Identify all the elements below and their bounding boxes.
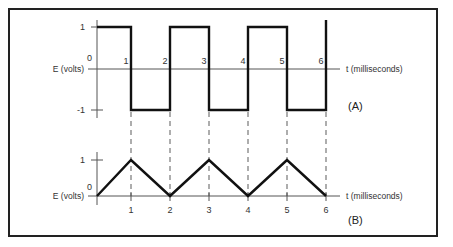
- panel-a-label: (A): [348, 100, 363, 112]
- panel-a-y-axis-label: E (volts): [53, 64, 84, 74]
- panel-b-y-axis-label: E (volts): [53, 191, 84, 201]
- panel-a-ylabel-0: 0: [87, 53, 92, 63]
- panel-connectors: [131, 112, 326, 196]
- panel-a-xlabel-4: 4: [240, 56, 245, 66]
- panel-a-ylabel-1: 1: [80, 22, 85, 32]
- panel-a-xlabel-1: 1: [123, 56, 128, 66]
- panel-b-label: (B): [348, 214, 363, 226]
- panel-a-ylabel-neg1: -1: [77, 105, 85, 115]
- panel-b: 1 0 1 2 3 4 5 6 E (volts) t (millisecond…: [53, 152, 403, 226]
- panel-a-x-axis-label: t (milliseconds): [346, 64, 403, 74]
- panel-a-xlabel-3: 3: [201, 56, 206, 66]
- panel-b-x-axis-label: t (milliseconds): [346, 191, 403, 201]
- panel-a-xlabel-2: 2: [162, 56, 167, 66]
- panel-b-ylabel-0: 0: [87, 182, 92, 192]
- panel-a: 1 0 -1 1 2 3 4 5 6 E (volts) t (millisec…: [53, 20, 403, 118]
- panel-a-square-wave: [97, 20, 326, 110]
- panel-b-xlabel-5: 5: [284, 205, 289, 215]
- panel-b-xlabel-3: 3: [206, 205, 211, 215]
- panel-b-xlabel-4: 4: [245, 205, 250, 215]
- panel-a-xlabel-5: 5: [279, 56, 284, 66]
- panel-a-xlabel-6: 6: [318, 56, 323, 66]
- waveform-figure: 1 0 -1 1 2 3 4 5 6 E (volts) t (millisec…: [0, 0, 453, 247]
- panel-b-xlabel-2: 2: [167, 205, 172, 215]
- panel-b-ylabel-1: 1: [80, 155, 85, 165]
- panel-b-xlabel-1: 1: [128, 205, 133, 215]
- panel-b-xlabel-6: 6: [323, 205, 328, 215]
- figure-root: 1 0 -1 1 2 3 4 5 6 E (volts) t (millisec…: [0, 0, 453, 247]
